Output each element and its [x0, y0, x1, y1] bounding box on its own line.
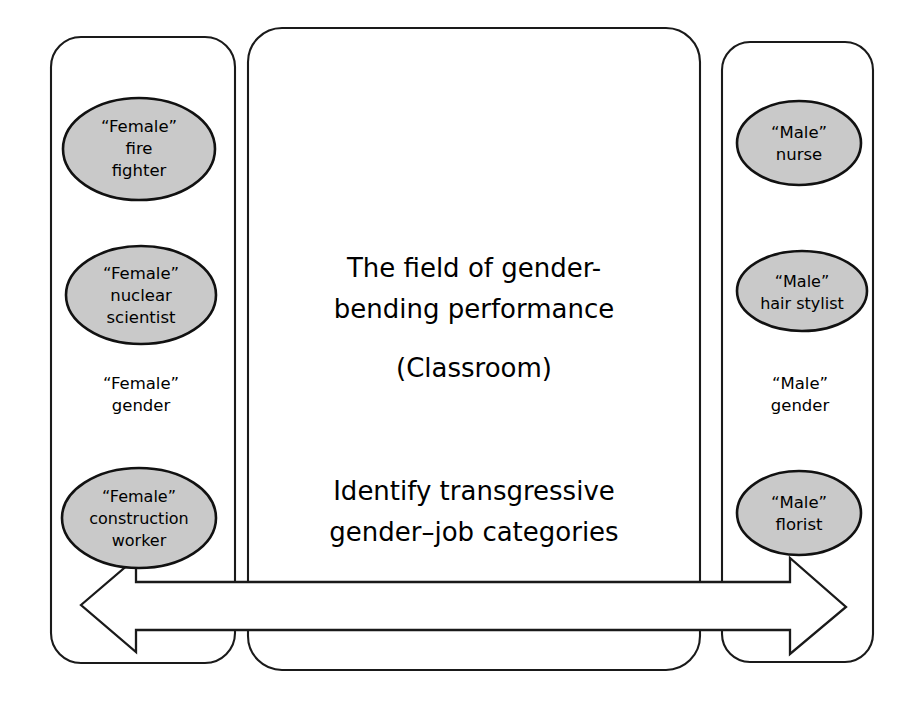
center-task-line2: gender–job categories — [329, 517, 618, 547]
node-male-hair-stylist[interactable]: “Male” hair stylist — [737, 251, 867, 331]
node-male-florist-line2: florist — [776, 515, 823, 534]
node-female-construction-worker[interactable]: “Female” construction worker — [62, 468, 216, 568]
center-task-line1: Identify transgressive — [333, 476, 615, 506]
node-female-nuclear-scientist-line3: scientist — [107, 308, 177, 327]
right-axis-label-line2: gender — [771, 396, 830, 415]
node-female-construction-worker-line1: “Female” — [102, 487, 176, 506]
node-female-fire-fighter-line2: fire — [126, 139, 153, 158]
node-female-fire-fighter-line1: “Female” — [101, 117, 177, 136]
left-axis-label-line2: gender — [112, 396, 171, 415]
node-male-florist-line1: “Male” — [771, 493, 827, 512]
center-subtitle: (Classroom) — [396, 353, 552, 383]
left-axis-label-line1: “Female” — [103, 374, 179, 393]
node-female-nuclear-scientist[interactable]: “Female” nuclear scientist — [66, 246, 216, 344]
center-panel-frame — [248, 28, 700, 670]
node-male-nurse-line2: nurse — [776, 145, 822, 164]
node-female-fire-fighter[interactable]: “Female” fire fighter — [63, 98, 215, 200]
center-heading-line1: The field of gender- — [346, 253, 601, 283]
node-female-construction-worker-line2: construction — [89, 509, 189, 528]
node-female-nuclear-scientist-line1: “Female” — [103, 264, 179, 283]
node-male-nurse-line1: “Male” — [771, 123, 827, 142]
node-male-florist-ellipse — [737, 471, 861, 555]
node-male-hair-stylist-line1: “Male” — [775, 272, 829, 291]
node-male-nurse[interactable]: “Male” nurse — [737, 101, 861, 185]
node-male-nurse-ellipse — [737, 101, 861, 185]
node-male-hair-stylist-line2: hair stylist — [760, 294, 844, 313]
right-axis-label-line1: “Male” — [772, 374, 828, 393]
node-female-fire-fighter-line3: fighter — [112, 161, 167, 180]
node-male-florist[interactable]: “Male” florist — [737, 471, 861, 555]
node-female-nuclear-scientist-line2: nuclear — [110, 286, 172, 305]
diagram-canvas: “Female” fire fighter “Female” nuclear s… — [0, 0, 914, 705]
center-heading-line2: bending performance — [334, 294, 614, 324]
node-male-hair-stylist-ellipse — [737, 251, 867, 331]
gender-performance-diagram: “Female” fire fighter “Female” nuclear s… — [0, 0, 914, 705]
node-female-construction-worker-line3: worker — [112, 531, 167, 550]
